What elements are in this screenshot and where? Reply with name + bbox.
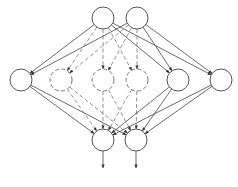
output-node-o1 (92, 129, 114, 151)
input-node-i2 (126, 7, 148, 29)
edge-h6-o2 (145, 86, 212, 133)
edge-h1-o1 (30, 87, 94, 134)
hidden-node-h2-dropped (50, 69, 72, 91)
edge-h5-o2 (142, 89, 171, 131)
hidden-node-h4-dropped (126, 69, 148, 91)
edge-i2-h1 (31, 23, 128, 75)
input-node-i1 (92, 7, 114, 29)
hidden-node-h1 (10, 69, 32, 91)
edge-i2-h5 (143, 27, 172, 71)
nodes-group (10, 7, 232, 151)
edge-h1-o2 (31, 85, 126, 135)
edges-group (30, 23, 212, 168)
edge-i1-h5 (112, 25, 170, 73)
hidden-node-h3-dropped (92, 69, 114, 91)
neural-network-diagram (0, 0, 238, 187)
output-node-o2 (125, 129, 147, 151)
edge-i1-h1 (30, 25, 94, 74)
edge-i2-h6 (146, 25, 212, 74)
hidden-node-h6 (210, 69, 232, 91)
hidden-node-h5 (167, 69, 189, 91)
